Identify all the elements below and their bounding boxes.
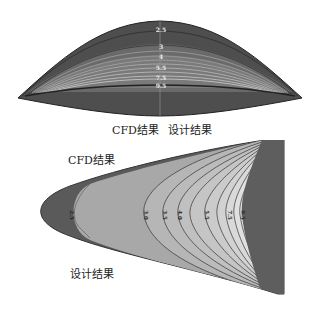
caption-cfd-result: CFD结果	[68, 151, 115, 167]
front-view-svg: 2.5 3 4 5.5 7.5 9.5	[0, 0, 319, 118]
contour-label: 3	[159, 43, 163, 50]
contour-label: 9.5	[156, 82, 166, 89]
contour-label: 7.5	[227, 210, 233, 220]
contour-label: 7.5	[156, 74, 166, 81]
contour-label: 9.5	[240, 210, 246, 220]
top-view-svg: 2.5 3.0 3.5 4.0 5.5 7.5 9.5	[0, 140, 319, 309]
caption-design-result: 设计结果	[168, 121, 212, 137]
front-view-contour-plot: 2.5 3 4 5.5 7.5 9.5	[0, 0, 319, 118]
caption-design-result: 设计结果	[70, 265, 114, 281]
caption-cfd-result: CFD结果	[112, 121, 159, 137]
contour-label: 3.5	[162, 210, 168, 220]
contour-label: 3.0	[143, 210, 149, 220]
top-view-contour-plot: 2.5 3.0 3.5 4.0 5.5 7.5 9.5	[0, 140, 319, 309]
contour-label: 4	[159, 53, 163, 60]
contour-label: 5.5	[156, 64, 166, 71]
contour-label: 2.5	[69, 210, 75, 220]
contour-label: 2.5	[156, 26, 166, 33]
contour-label: 4.0	[177, 210, 183, 220]
contour-label: 5.5	[204, 210, 210, 220]
